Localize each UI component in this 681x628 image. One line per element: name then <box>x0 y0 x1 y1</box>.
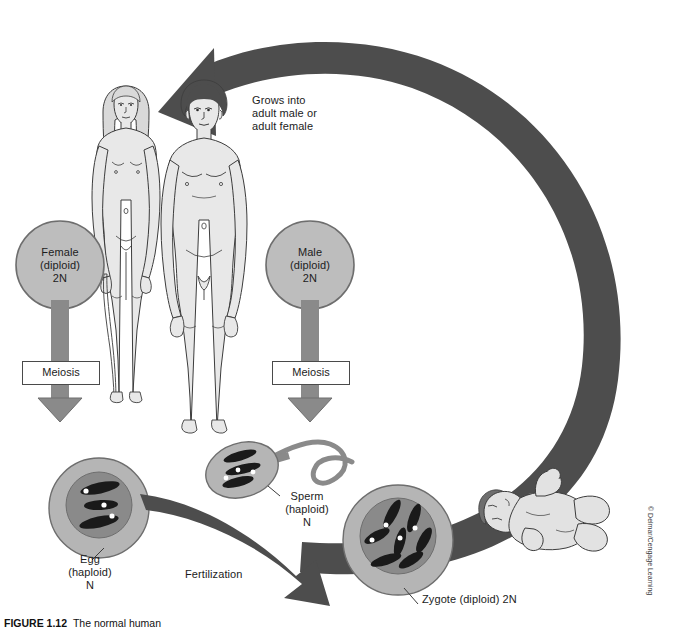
figure-caption: FIGURE 1.12 The normal human <box>4 617 424 628</box>
egg-label: Egg (haploid) N <box>55 553 125 592</box>
figure-caption-text: The normal human <box>73 617 161 628</box>
zygote-label: Zygote (diploid) 2N <box>422 593 572 606</box>
figure-number: FIGURE 1.12 <box>4 617 67 628</box>
female-diploid-label: Female (diploid) 2N <box>18 246 102 285</box>
adult-male-figure <box>161 80 247 433</box>
copyright-notice: © Delmar/Cengage Learning <box>646 506 655 520</box>
zygote-cell <box>343 485 453 604</box>
meiosis-label-male: Meiosis <box>272 361 350 385</box>
adult-female-figure <box>92 86 160 403</box>
fertilization-label: Fertilization <box>185 568 275 581</box>
sperm-label: Sperm (haploid) N <box>272 490 342 529</box>
figure-canvas: Grows into adult male or adult female Fe… <box>0 0 681 628</box>
meiosis-label-female: Meiosis <box>22 361 100 385</box>
male-diploid-label: Male (diploid) 2N <box>268 246 352 285</box>
grows-into-label: Grows into adult male or adult female <box>252 94 372 133</box>
egg-cell <box>49 458 149 560</box>
